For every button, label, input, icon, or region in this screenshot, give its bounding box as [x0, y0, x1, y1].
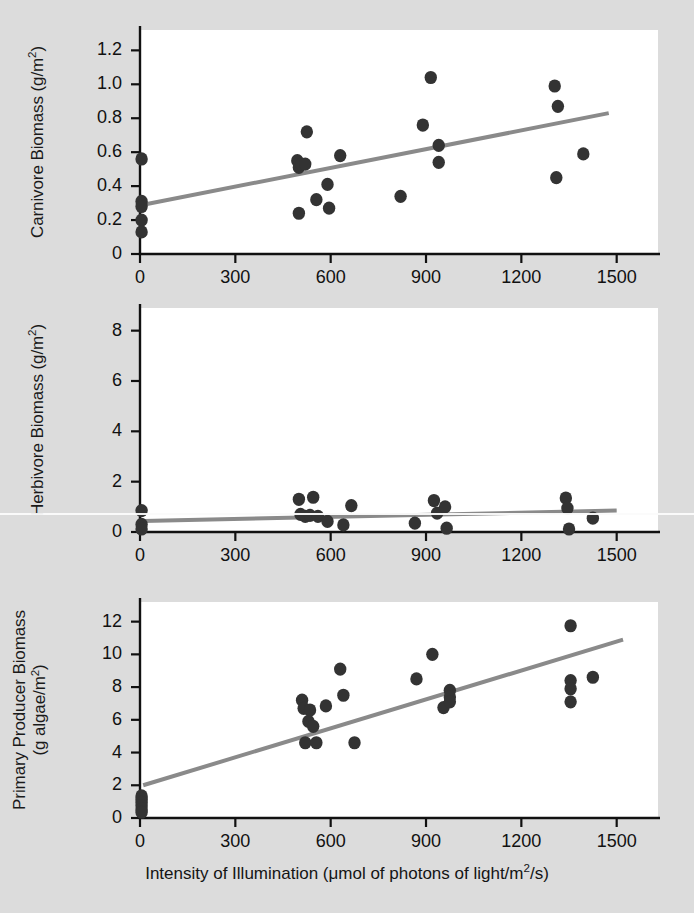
y-tick-label: 0.6 [60, 141, 122, 162]
chart-panel-herbivore-biomass: 02468030060090012001500Herbivore Biomass… [0, 0, 694, 913]
data-point [345, 499, 357, 512]
data-point [135, 213, 147, 226]
data-point [135, 789, 147, 802]
data-point [560, 491, 572, 504]
x-tick-label: 900 [381, 267, 471, 288]
data-point [433, 156, 445, 169]
x-tick-label: 600 [286, 267, 376, 288]
y-axis-title: Herbivore Biomass (g/m2) [28, 324, 48, 516]
data-point [291, 154, 303, 167]
data-point [564, 682, 576, 695]
x-axis-ticks [140, 532, 617, 541]
data-point [295, 157, 307, 170]
data-point [564, 619, 576, 632]
y-tick-label: 10 [60, 643, 122, 664]
x-axis-ticks [140, 254, 617, 263]
data-point [307, 720, 319, 733]
x-tick-label: 600 [286, 831, 376, 852]
y-tick-label: 6 [60, 370, 122, 391]
data-point [135, 793, 147, 806]
trend-line [143, 113, 609, 205]
data-point [337, 518, 349, 531]
x-axis-ticks [140, 818, 617, 827]
data-point [321, 178, 333, 191]
y-tick-label: 6 [60, 709, 122, 730]
data-point [310, 193, 322, 206]
plot-area [140, 602, 658, 818]
data-point [135, 806, 147, 819]
data-point [428, 494, 440, 507]
data-point [337, 689, 349, 702]
x-tick-label: 300 [190, 267, 280, 288]
plot-area [140, 308, 658, 532]
x-tick-label: 0 [95, 831, 185, 852]
x-tick-label: 1200 [476, 545, 566, 566]
data-point [552, 100, 564, 113]
data-point [135, 799, 147, 812]
data-point [444, 695, 456, 708]
scan-artifact-line [0, 513, 694, 515]
x-tick-label: 1200 [476, 831, 566, 852]
x-tick-label: 900 [381, 545, 471, 566]
y-tick-label: 1.0 [60, 73, 122, 94]
data-point [302, 715, 314, 728]
y-tick-label: 2 [60, 774, 122, 795]
data-point [293, 161, 305, 174]
data-point [334, 149, 346, 162]
y-tick-label: 0.8 [60, 107, 122, 128]
data-point [334, 662, 346, 675]
data-point [135, 195, 147, 208]
y-tick-label: 12 [60, 611, 122, 632]
x-tick-label: 600 [286, 545, 376, 566]
axes [139, 304, 660, 532]
plot-area [140, 30, 658, 254]
data-point [563, 522, 575, 535]
data-point [320, 699, 332, 712]
x-tick-label: 1500 [572, 545, 662, 566]
data-point [410, 672, 422, 685]
data-point [433, 139, 445, 152]
data-point [135, 200, 147, 213]
plot-graphics-layer [0, 0, 694, 913]
x-axis-title: Intensity of Illumination (μmol of photo… [0, 864, 694, 884]
data-point [348, 736, 360, 749]
y-tick-label: 0 [60, 807, 122, 828]
y-axis-ticks [131, 331, 140, 532]
y-tick-label: 0 [60, 243, 122, 264]
x-tick-label: 300 [190, 545, 280, 566]
data-point [323, 202, 335, 215]
data-point [577, 147, 589, 160]
data-point [135, 796, 147, 809]
data-point [299, 510, 311, 523]
y-tick-label: 0.4 [60, 175, 122, 196]
data-point [439, 500, 451, 513]
data-point [564, 695, 576, 708]
data-point [417, 118, 429, 131]
data-point [444, 684, 456, 697]
x-tick-label: 0 [95, 267, 185, 288]
y-axis-title: Primary Producer Biomass(g algae/m2) [10, 610, 49, 810]
y-axis-title: Carnivore Biomass (g/m2) [28, 46, 48, 238]
y-tick-label: 4 [60, 742, 122, 763]
y-tick-label: 8 [60, 676, 122, 697]
data-point [440, 522, 452, 535]
y-tick-label: 0 [60, 521, 122, 542]
data-point [299, 736, 311, 749]
figure-container: 00.20.40.60.81.01.2030060090012001500Car… [0, 0, 694, 913]
data-point [549, 79, 561, 92]
y-axis-ticks [131, 622, 140, 818]
data-point [293, 493, 305, 506]
x-tick-label: 1500 [572, 267, 662, 288]
y-tick-label: 2 [60, 471, 122, 492]
data-point [425, 71, 437, 84]
data-point [307, 491, 319, 504]
data-point [135, 522, 147, 535]
data-points [135, 619, 599, 819]
data-point [135, 504, 147, 517]
data-point [135, 802, 147, 815]
data-point [299, 157, 311, 170]
data-point [587, 671, 599, 684]
y-tick-label: 4 [60, 420, 122, 441]
data-point [135, 225, 147, 238]
data-point [564, 674, 576, 687]
